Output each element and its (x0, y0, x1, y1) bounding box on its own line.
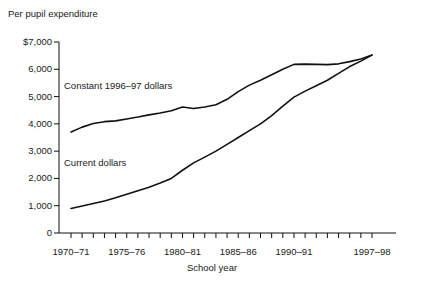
x-tick-label: 1997–98 (342, 246, 402, 257)
y-tick-label: 4,000 (2, 118, 52, 129)
data-line-constant-dollars (71, 55, 372, 132)
x-tick-label: 1980–81 (152, 246, 212, 257)
x-axis-title: School year (0, 262, 424, 273)
y-tick-label: $7,000 (2, 36, 52, 47)
chart-container: Per pupil expenditure 01,0002,0003,0004,… (0, 0, 424, 286)
y-tick-label: 2,000 (2, 172, 52, 183)
x-tick-label: 1990–91 (264, 246, 324, 257)
y-tick-label: 5,000 (2, 91, 52, 102)
x-tick-label: 1985–86 (208, 246, 268, 257)
data-lines-group (71, 55, 372, 208)
y-tick-label: 1,000 (2, 200, 52, 211)
y-tick-label: 6,000 (2, 63, 52, 74)
data-line-current-dollars (71, 55, 372, 208)
series-label-current-dollars: Current dollars (64, 157, 126, 168)
x-tick-label: 1970–71 (41, 246, 101, 257)
series-label-constant-dollars: Constant 1996–97 dollars (64, 80, 172, 91)
tick-marks-group (54, 42, 372, 238)
y-tick-label: 3,000 (2, 145, 52, 156)
axes-group (59, 42, 396, 233)
x-tick-label: 1975–76 (97, 246, 157, 257)
y-tick-label: 0 (2, 227, 52, 238)
chart-plot-area (0, 0, 424, 286)
